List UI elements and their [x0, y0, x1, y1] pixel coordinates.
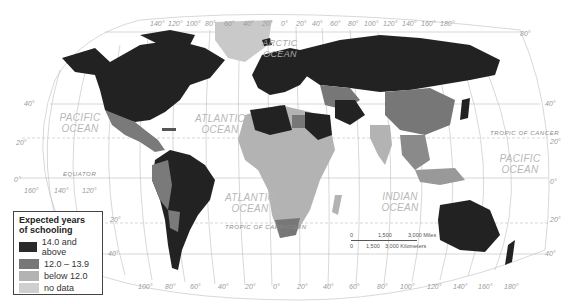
scale-km-1500: 1,500 [366, 243, 380, 249]
legend-swatch-light [19, 271, 39, 281]
lon-label: 120° [82, 187, 96, 194]
legend-item: no data [19, 283, 97, 293]
lon-label: 80° [165, 283, 176, 290]
legend-label: 12.0 – 13.9 [44, 259, 89, 269]
legend-label: no data [44, 283, 74, 293]
equator-label: EQUATOR [63, 171, 96, 177]
lat-label: 40° [24, 100, 35, 107]
ocean-label-indian: INDIAN OCEAN [370, 191, 430, 213]
lat-label: 40° [545, 250, 556, 257]
legend-label: 14.0 and above [42, 237, 97, 257]
legend-label: below 12.0 [44, 271, 88, 281]
caribbean [162, 128, 176, 131]
legend-title-line: of schooling [19, 225, 97, 235]
map-legend: Expected years of schooling 14.0 and abo… [13, 211, 103, 295]
ocean-label-line: OCEAN [185, 124, 255, 135]
tropic-of-capricorn-label: TROPIC OF CAPRICORN [225, 224, 307, 230]
lon-label: 80° [348, 20, 359, 27]
lon-label: 80° [377, 283, 388, 290]
lon-label: 40° [243, 20, 254, 27]
ocean-label-line: OCEAN [490, 164, 550, 175]
legend-title: Expected years of schooling [19, 215, 97, 235]
legend-swatch-medium [19, 259, 39, 269]
southeast-asia [400, 135, 430, 170]
ocean-label-line: OCEAN [50, 123, 110, 134]
lat-label: 20° [550, 138, 561, 145]
lon-label: 40° [323, 283, 334, 290]
lon-label: 140° [402, 20, 416, 27]
legend-title-line: Expected years [19, 215, 97, 225]
lon-label: 100° [138, 283, 152, 290]
new-zealand [505, 240, 515, 265]
scale-miles-3000: 3,000 Miles [408, 232, 436, 238]
andean-countries [152, 160, 172, 210]
lon-label: 160° [478, 283, 492, 290]
scale-line [351, 240, 417, 241]
lon-label: 120° [383, 20, 397, 27]
russia [300, 35, 500, 92]
scale-km-3000: 3,000 Kilometers [385, 243, 426, 249]
lon-label: 40° [312, 20, 323, 27]
tropic-of-cancer-label: TROPIC OF CANCER [490, 130, 559, 136]
ocean-label-line: ATLANTIC [185, 113, 255, 124]
ocean-label-line: OCEAN [255, 49, 305, 60]
ocean-label-line: OCEAN [215, 203, 285, 214]
legend-item: below 12.0 [19, 271, 97, 281]
lon-label: 60° [349, 283, 360, 290]
lon-label: 20° [262, 20, 273, 27]
lon-label: 180° [504, 283, 518, 290]
indonesia [415, 168, 465, 185]
ocean-label-pacific-east: PACIFIC OCEAN [490, 153, 550, 175]
japan [460, 98, 470, 120]
lon-label: 20° [245, 283, 256, 290]
lon-label: 100° [186, 20, 200, 27]
ocean-label-line: INDIAN [370, 191, 430, 202]
ocean-label-line: ARCTIC [255, 38, 305, 49]
north-america [62, 40, 225, 122]
lon-label: 0° [273, 283, 280, 290]
ocean-label-atlantic-south: ATLANTIC OCEAN [215, 192, 285, 214]
lon-label: 40° [218, 283, 229, 290]
lon-label: 140° [150, 20, 164, 27]
lat-label: 80° [520, 30, 531, 37]
lon-label: 80° [205, 20, 216, 27]
lon-label: 120° [168, 20, 182, 27]
ocean-label-atlantic-north: ATLANTIC OCEAN [185, 113, 255, 135]
ocean-label-arctic: ARCTIC OCEAN [255, 38, 305, 60]
lat-label: 20° [550, 216, 561, 223]
lon-label: 100° [364, 20, 378, 27]
lon-label: 120° [427, 283, 441, 290]
lon-label: 100° [400, 283, 414, 290]
lat-label: 0° [550, 178, 557, 185]
ocean-label-line: OCEAN [370, 202, 430, 213]
lat-label: 40° [545, 100, 556, 107]
lat-label: 20° [110, 216, 121, 223]
scale-miles-0: 0 [350, 232, 353, 238]
lat-label: 0° [14, 176, 21, 183]
ocean-label-line: ATLANTIC [215, 192, 285, 203]
lon-label: 160° [24, 187, 38, 194]
legend-item: 12.0 – 13.9 [19, 259, 97, 269]
scale-bar: 0 1,500 3,000 Miles 0 1,500 3,000 Kilome… [350, 232, 470, 254]
scale-miles-1500: 1,500 [378, 232, 392, 238]
lon-label: 20° [297, 283, 308, 290]
scale-km-0: 0 [350, 243, 353, 249]
egypt [292, 115, 305, 128]
lon-label: 180° [440, 20, 454, 27]
india [370, 125, 392, 165]
legend-swatch-dark [19, 242, 37, 252]
lon-label: 0° [281, 20, 288, 27]
ocean-label-pacific-west: PACIFIC OCEAN [50, 112, 110, 134]
madagascar [332, 195, 342, 215]
legend-item: 14.0 and above [19, 237, 97, 257]
lat-label: 40° [108, 250, 119, 257]
lon-label: 160° [421, 20, 435, 27]
legend-swatch-nodata [19, 283, 39, 293]
ocean-label-line: PACIFIC [490, 153, 550, 164]
lon-label: 20° [296, 20, 307, 27]
ocean-label-line: PACIFIC [50, 112, 110, 123]
china [385, 88, 455, 135]
lon-label: 60° [190, 283, 201, 290]
lon-label: 140° [54, 187, 68, 194]
lon-label: 60° [224, 20, 235, 27]
